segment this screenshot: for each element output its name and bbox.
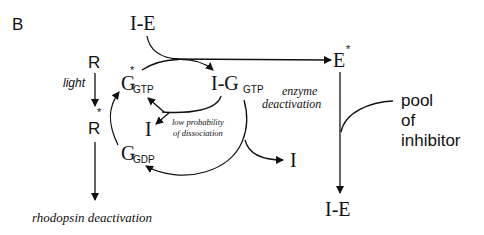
curve-back-from-i-g-gtp	[162, 96, 221, 112]
arrow-to-e-star	[172, 59, 331, 60]
diagram-canvas: B I-E R light R * rhodopsin deactivation…	[0, 0, 484, 235]
label-pool-line3: inhibitor	[401, 131, 461, 150]
node-r-star-sup: *	[97, 106, 102, 118]
node-ie-top: I-E	[130, 12, 156, 34]
node-g-gtp-star-sup: *	[130, 64, 135, 76]
label-enzyme-line1: enzyme	[282, 84, 318, 98]
node-ie-bottom: I-E	[325, 198, 351, 220]
node-r: R	[88, 53, 100, 72]
label-rhodopsin-deactivation: rhodopsin deactivation	[32, 210, 152, 225]
node-r-star-base: R	[88, 119, 100, 138]
label-low-probability-line2: of dissociation	[173, 128, 223, 138]
node-g-gdp-sub: GDP	[133, 154, 155, 165]
arrow-release-i	[245, 140, 283, 160]
label-light: light	[63, 76, 86, 90]
arrow-g-gdp-to-g-gtp	[110, 92, 119, 145]
g-protein-inhibitor-cycle-diagram: B I-E R light R * rhodopsin deactivation…	[0, 0, 484, 235]
node-i-released: I	[290, 149, 297, 171]
label-pool-line1: pool	[401, 91, 433, 110]
arrow-back-to-g-gtp	[148, 98, 164, 112]
node-e-star-base: E	[333, 49, 345, 71]
curve-pool-join	[341, 101, 393, 132]
label-enzyme-line2: deactivation	[262, 97, 321, 111]
node-i-g-gtp-base: I-G	[211, 72, 239, 94]
node-i-small: I	[145, 118, 152, 140]
arrow-g-gtp-to-i-g-gtp	[142, 59, 213, 70]
panel-label: B	[12, 15, 23, 34]
node-g-gtp-star-sub: GTP	[133, 84, 154, 95]
node-e-star-sup: *	[346, 43, 351, 55]
arrow-dissociation-to-i	[156, 112, 170, 124]
label-pool-line2: of	[401, 111, 415, 130]
curve-ie-into-line	[147, 36, 178, 59]
node-i-g-gtp-sub: GTP	[243, 84, 264, 95]
label-low-probability-line1: low probability	[172, 117, 224, 127]
